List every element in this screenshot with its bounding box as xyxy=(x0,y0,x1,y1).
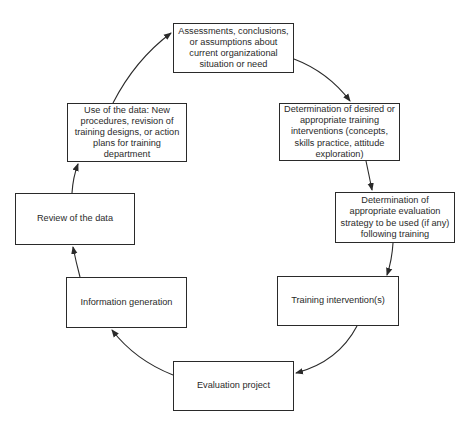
node-use-data: Use of the data: New procedures, revisio… xyxy=(67,103,187,162)
node-assessments: Assessments, conclusions, or assumptions… xyxy=(173,23,294,73)
node-label: Determination of desired or appropriate … xyxy=(284,104,395,160)
node-label: Assessments, conclusions, or assumptions… xyxy=(178,26,288,71)
arrow-training-to-evaluation-project xyxy=(296,326,357,373)
training-evaluation-cycle-diagram: Assessments, conclusions, or assumptions… xyxy=(0,0,476,431)
node-label: Information generation xyxy=(81,297,173,308)
node-evaluation-strategy: Determination of appropriate evaluation … xyxy=(335,192,455,243)
node-training-intervention: Training intervention(s) xyxy=(277,276,399,326)
arrow-assessments-to-interventions xyxy=(294,59,350,101)
node-review-data: Review of the data xyxy=(15,193,135,245)
node-label: Determination of appropriate evaluation … xyxy=(341,195,450,240)
arrow-strategy-to-training xyxy=(387,243,393,275)
arrow-evaluation-project-to-information xyxy=(112,330,173,375)
node-information-generation: Information generation xyxy=(66,277,187,328)
arrow-interventions-to-strategy xyxy=(366,161,372,190)
node-desired-interventions: Determination of desired or appropriate … xyxy=(279,103,400,161)
node-label: Training intervention(s) xyxy=(291,295,385,306)
arrow-review-to-use xyxy=(72,164,78,193)
node-label: Use of the data: New procedures, revisio… xyxy=(75,105,180,161)
node-label: Evaluation project xyxy=(197,380,270,391)
node-evaluation-project: Evaluation project xyxy=(173,361,294,411)
node-label: Review of the data xyxy=(37,213,113,224)
arrow-information-to-review xyxy=(73,247,80,277)
arrow-use-to-assessments xyxy=(113,33,171,103)
